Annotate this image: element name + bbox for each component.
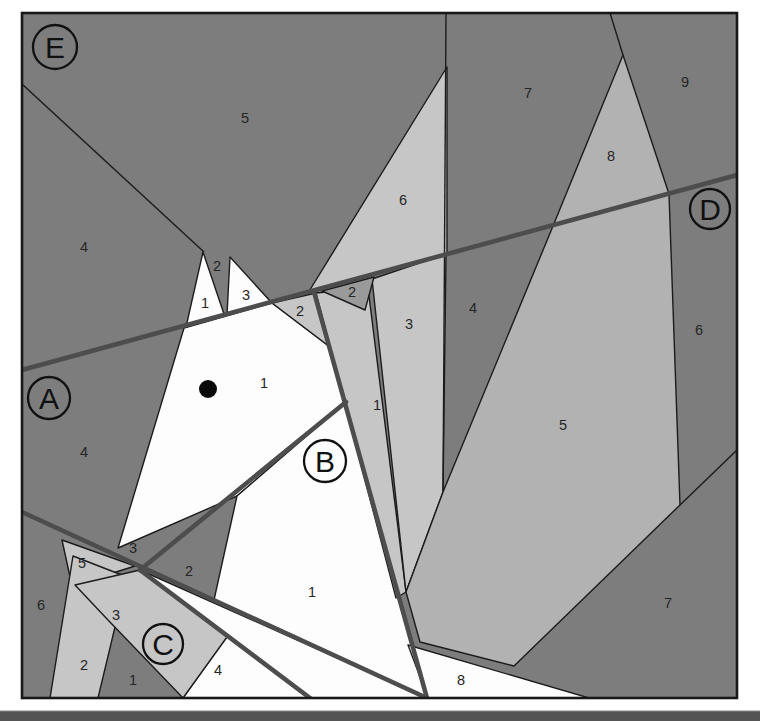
section-label-C: C [152, 628, 174, 661]
piece-number-3-4: 3 [242, 287, 250, 303]
piece-number-6-24: 6 [37, 597, 45, 613]
bottom-bar [0, 711, 760, 721]
piece-number-5-15: 5 [559, 417, 567, 433]
piece-number-8-17: 8 [457, 672, 465, 688]
piece-number-8-12: 8 [607, 148, 615, 164]
piece-number-4-9: 4 [469, 300, 477, 316]
piece-number-3-20: 3 [129, 540, 137, 556]
piece-number-1-3: 1 [201, 295, 209, 311]
piece-number-5-23: 5 [78, 555, 86, 571]
piece-number-5-0: 5 [241, 110, 249, 126]
piece-number-2-26: 2 [80, 657, 88, 673]
section-label-A: A [39, 382, 59, 415]
piece-number-2-6: 2 [348, 284, 356, 300]
piece-number-3-8: 3 [405, 316, 413, 332]
horse-eye-dot [199, 380, 217, 398]
piece-number-4-1: 4 [80, 239, 88, 255]
piece-number-4-18: 4 [80, 444, 88, 460]
paper-piecing-pattern: 54213226341789657841321563214EABCD [0, 0, 760, 721]
piece-number-4-28: 4 [214, 662, 222, 678]
piece-number-2-21: 2 [185, 563, 193, 579]
section-label-B: B [315, 445, 335, 478]
section-label-D: D [699, 193, 721, 226]
piece-number-3-25: 3 [112, 607, 120, 623]
pattern-page: 54213226341789657841321563214EABCD [0, 0, 760, 721]
piece-number-6-14: 6 [695, 322, 703, 338]
piece-number-7-16: 7 [664, 595, 672, 611]
piece-number-6-7: 6 [399, 192, 407, 208]
pattern-interior: 54213226341789657841321563214EABCD [22, 13, 737, 698]
section-label-E: E [45, 31, 65, 64]
piece-number-1-22: 1 [308, 584, 316, 600]
piece-number-1-10: 1 [373, 397, 381, 413]
piece-number-1-19: 1 [260, 375, 268, 391]
piece-number-2-5: 2 [296, 303, 304, 319]
piece-number-9-13: 9 [681, 74, 689, 90]
piece-number-7-11: 7 [524, 85, 532, 101]
piece-number-1-27: 1 [129, 672, 137, 688]
piece-number-2-2: 2 [213, 258, 221, 274]
